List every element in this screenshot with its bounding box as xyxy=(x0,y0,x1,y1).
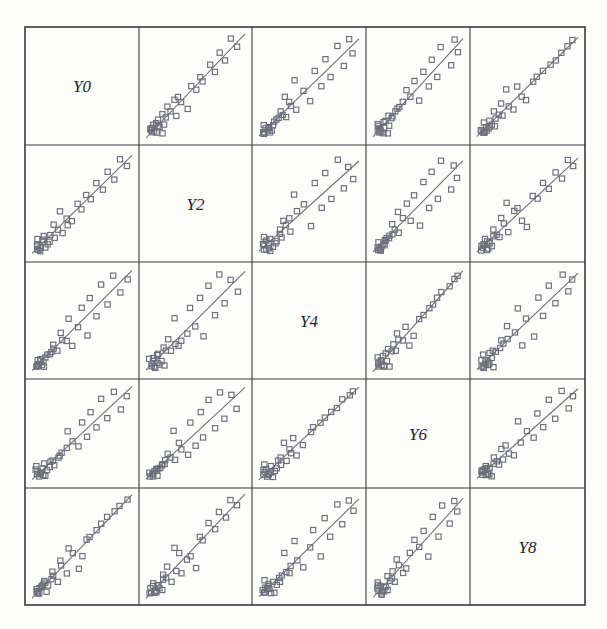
data-point-marker xyxy=(452,37,457,42)
marker-group xyxy=(479,388,576,479)
data-point-marker xyxy=(65,429,70,434)
regression-line xyxy=(259,161,359,251)
data-point-marker xyxy=(193,324,198,329)
data-point-marker xyxy=(498,101,503,106)
diagonal-variable-label: Y2 xyxy=(187,195,205,214)
data-point-marker xyxy=(322,516,327,521)
data-point-marker xyxy=(66,316,71,321)
data-point-marker xyxy=(160,131,165,136)
data-point-marker xyxy=(217,50,222,55)
data-point-marker xyxy=(294,209,299,214)
data-point-marker xyxy=(559,388,564,393)
data-point-marker xyxy=(64,571,69,576)
data-point-marker xyxy=(99,521,104,526)
data-point-marker xyxy=(193,443,198,448)
data-point-marker xyxy=(58,330,63,335)
data-point-marker xyxy=(491,227,496,232)
data-point-marker xyxy=(75,201,80,206)
data-point-marker xyxy=(540,180,545,185)
data-point-marker xyxy=(228,277,233,282)
data-point-marker xyxy=(438,44,443,49)
splom-scatter-cell xyxy=(146,387,245,479)
data-point-marker xyxy=(519,218,524,223)
data-point-marker xyxy=(536,295,541,300)
marker-group xyxy=(261,36,356,136)
data-point-marker xyxy=(447,521,452,526)
data-point-marker xyxy=(455,509,460,514)
data-point-marker xyxy=(387,364,392,369)
marker-group xyxy=(479,272,575,370)
data-point-marker xyxy=(553,170,558,175)
data-point-marker xyxy=(174,568,179,573)
data-point-marker xyxy=(201,334,206,339)
data-point-marker xyxy=(504,324,509,329)
data-point-marker xyxy=(117,157,122,162)
data-point-marker xyxy=(319,205,324,210)
data-point-marker xyxy=(323,170,328,175)
data-point-marker xyxy=(499,215,504,220)
data-point-marker xyxy=(217,390,222,395)
data-point-marker xyxy=(421,179,426,184)
data-point-marker xyxy=(408,218,413,223)
data-point-marker xyxy=(228,36,233,41)
data-point-marker xyxy=(404,201,409,206)
marker-group xyxy=(375,273,460,369)
regression-line xyxy=(373,498,463,597)
data-point-marker xyxy=(105,416,110,421)
data-point-marker xyxy=(87,295,92,300)
data-point-marker xyxy=(294,453,299,458)
data-point-marker xyxy=(178,100,183,105)
data-point-marker xyxy=(351,176,356,181)
splom-scatter-cell xyxy=(477,272,578,370)
data-point-marker xyxy=(76,444,81,449)
data-point-marker xyxy=(99,282,104,287)
splom-scatter-cell xyxy=(32,155,132,253)
data-point-marker xyxy=(395,209,400,214)
splom-scatter-cell xyxy=(259,498,359,597)
data-point-marker xyxy=(194,87,199,92)
marker-group xyxy=(261,389,356,480)
diagonal-variable-label: Y0 xyxy=(73,77,91,96)
data-point-marker xyxy=(172,545,177,550)
data-point-marker xyxy=(429,57,434,62)
data-point-marker xyxy=(439,289,444,294)
data-point-marker xyxy=(172,316,177,321)
data-point-marker xyxy=(197,295,202,300)
data-point-marker xyxy=(118,290,123,295)
splom-scatter-cell xyxy=(146,494,245,598)
data-point-marker xyxy=(284,458,289,463)
data-point-marker xyxy=(70,343,75,348)
data-point-marker xyxy=(417,98,422,103)
data-point-marker xyxy=(394,331,399,336)
data-point-marker xyxy=(318,554,323,559)
data-point-marker xyxy=(85,333,90,338)
scatterplot-matrix-canvas: Y0Y2Y4Y6Y8 xyxy=(0,0,607,629)
data-point-marker xyxy=(454,175,459,180)
data-point-marker xyxy=(49,576,54,581)
data-point-marker xyxy=(540,313,545,318)
data-point-marker xyxy=(436,534,441,539)
data-point-marker xyxy=(94,181,99,186)
data-point-marker xyxy=(394,557,399,562)
data-point-marker xyxy=(411,193,416,198)
data-point-marker xyxy=(515,84,520,89)
data-point-marker xyxy=(504,200,509,205)
data-point-marker xyxy=(55,579,60,584)
data-point-marker xyxy=(546,283,551,288)
data-point-marker xyxy=(341,63,346,68)
data-point-marker xyxy=(565,157,570,162)
data-point-marker xyxy=(222,301,227,306)
data-point-marker xyxy=(294,107,299,112)
data-point-marker xyxy=(351,508,356,513)
data-point-marker xyxy=(500,457,505,462)
marker-group xyxy=(478,37,575,135)
data-point-marker xyxy=(435,74,440,79)
data-point-marker xyxy=(553,416,558,421)
data-point-marker xyxy=(340,522,345,527)
data-point-marker xyxy=(559,176,564,181)
data-point-marker xyxy=(168,348,173,353)
data-point-marker xyxy=(335,157,340,162)
data-point-marker xyxy=(329,196,334,201)
data-point-marker xyxy=(100,187,105,192)
data-point-marker xyxy=(84,434,89,439)
